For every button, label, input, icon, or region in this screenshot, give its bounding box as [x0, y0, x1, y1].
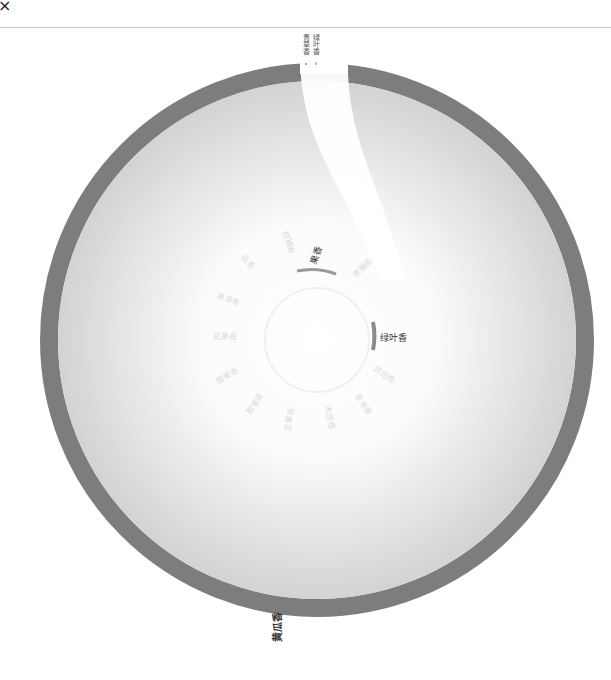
legend-item-green-leaf[interactable]: 绿叶香	[312, 33, 321, 56]
label-faded[interactable]: 花果香	[213, 331, 237, 341]
chart-disk	[58, 81, 576, 599]
legend-marker	[305, 63, 307, 65]
label-cucumber[interactable]: 黄瓜香	[271, 612, 283, 642]
legend-item-grass[interactable]: 青草香	[302, 33, 311, 56]
legend-marker	[316, 62, 317, 65]
label-green-leaf[interactable]: 绿叶香	[380, 332, 407, 343]
arc-green-leaf[interactable]	[373, 322, 374, 350]
sunburst-chart: 柑橘香 花香 青草香 花果香 甜果香 甜蜜香 坚果香 木质香 草本香 烘焙香 焦…	[0, 0, 611, 680]
